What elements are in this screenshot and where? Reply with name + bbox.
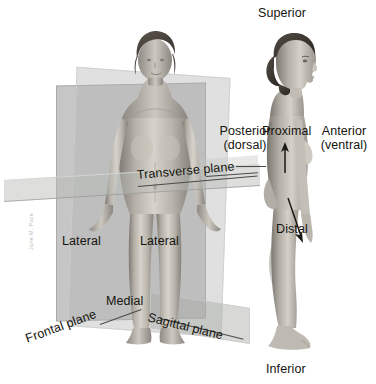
- label-posterior-alt: (dorsal): [214, 138, 276, 152]
- anatomical-planes-figure: Superior Inferior Posterior (dorsal) Pro…: [0, 0, 376, 384]
- female-figure-lateral-view: [246, 26, 356, 364]
- label-lateral-right: Lateral: [140, 234, 179, 248]
- label-anterior: Anterior: [315, 124, 373, 138]
- proximal-up-arrow: [274, 140, 296, 174]
- label-medial: Medial: [106, 294, 143, 308]
- label-lateral-left: Lateral: [62, 234, 101, 248]
- label-distal: Distal: [276, 222, 308, 236]
- posterior-leader-line: [236, 166, 266, 167]
- label-superior: Superior: [258, 6, 306, 20]
- distal-down-arrow: [284, 196, 312, 246]
- label-inferior: Inferior: [266, 362, 306, 376]
- label-anterior-alt: (ventral): [315, 138, 373, 152]
- label-proximal: Proximal: [262, 124, 311, 138]
- artist-credit: Jane M. Pace: [28, 213, 34, 250]
